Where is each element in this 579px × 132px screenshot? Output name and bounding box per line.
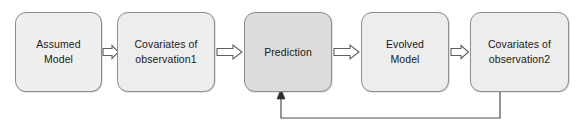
node-assumed-model-line-2: Model bbox=[44, 52, 73, 67]
node-covariates-observation1[interactable]: Covariates of observation1 bbox=[117, 12, 215, 92]
flowchart-diagram: Assumed Model Covariates of observation1… bbox=[0, 0, 579, 132]
node-prediction-line-1: Prediction bbox=[264, 45, 312, 60]
arrow-covariates1-to-prediction bbox=[217, 45, 242, 59]
node-covariates-observation1-line-2: observation1 bbox=[135, 52, 196, 67]
node-covariates-observation2-line-1: Covariates of bbox=[488, 37, 551, 52]
node-evolved-model-line-1: Evolved bbox=[386, 37, 424, 52]
feedback-covariates2-to-prediction bbox=[277, 89, 500, 118]
node-assumed-model-line-1: Assumed bbox=[36, 37, 80, 52]
node-prediction[interactable]: Prediction bbox=[244, 12, 332, 92]
arrow-prediction-to-evolved bbox=[334, 45, 359, 59]
arrow-evolved-to-covariates2 bbox=[451, 46, 469, 59]
node-assumed-model[interactable]: Assumed Model bbox=[15, 12, 102, 92]
node-covariates-observation2[interactable]: Covariates of observation2 bbox=[470, 12, 569, 92]
node-covariates-observation2-line-2: observation2 bbox=[489, 52, 550, 67]
node-evolved-model[interactable]: Evolved Model bbox=[361, 12, 449, 92]
node-covariates-observation1-line-1: Covariates of bbox=[134, 37, 197, 52]
node-evolved-model-line-2: Model bbox=[390, 52, 419, 67]
